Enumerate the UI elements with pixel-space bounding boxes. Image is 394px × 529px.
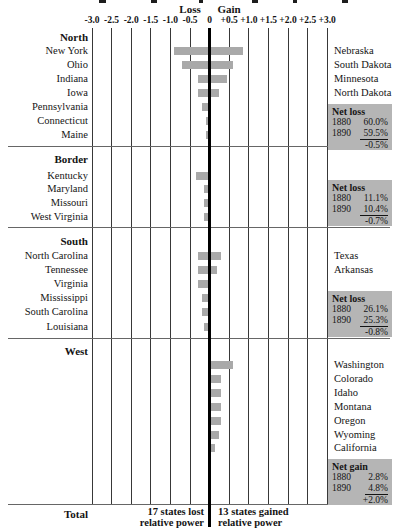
net-box-result-row: -0.7%: [332, 216, 388, 227]
net-box-year: 1880: [332, 193, 351, 204]
net-box-value: 10.4%: [360, 204, 388, 216]
net-change-box: Net loss188026.1%189025.3%-0.8%: [328, 291, 392, 337]
gain-bar: [211, 444, 215, 452]
gain-bar: [211, 89, 219, 97]
gain-state-label: Arkansas: [334, 263, 392, 276]
states-lost-note-line2: relative power: [104, 517, 204, 528]
gain-bar: [211, 431, 219, 439]
loss-state-label: Ohio: [0, 58, 88, 71]
loss-state-label: Missouri: [0, 196, 88, 209]
gain-state-label: Montana: [334, 400, 392, 413]
loss-state-label: Iowa: [0, 86, 88, 99]
net-box-title: Net gain: [332, 461, 388, 472]
states-gained-note-line2: relative power: [218, 517, 328, 528]
net-box-title: Net loss: [332, 293, 388, 304]
section-divider: [8, 227, 390, 228]
diverging-bar-chart: Loss Gain Total 17 states lost relative …: [0, 0, 394, 529]
net-box-row: 189059.5%: [332, 128, 388, 140]
net-box-year: 1880: [332, 304, 351, 315]
grid-line: [131, 28, 132, 504]
grid-line: [92, 28, 93, 504]
loss-bar: [198, 266, 209, 274]
cropped-title-remnant: [342, 0, 348, 3]
gain-state-label: South Dakota: [334, 58, 392, 71]
loss-state-label: New York: [0, 44, 88, 57]
loss-bar: [198, 252, 209, 260]
states-lost-note-line1: 17 states lost: [104, 506, 204, 517]
grid-line: [190, 28, 191, 504]
region-label: North: [0, 31, 88, 44]
net-change-box: Net loss188060.0%189059.5%-0.5%: [328, 104, 392, 150]
gain-state-label: Oregon: [334, 414, 392, 427]
grid-line: [288, 28, 289, 504]
cropped-title-remnant: [151, 0, 157, 3]
states-lost-note: 17 states lost relative power: [104, 506, 204, 528]
states-gained-note: 13 states gained relative power: [218, 506, 328, 528]
net-box-year: 1880: [332, 472, 351, 483]
loss-state-label: Louisiana: [0, 320, 88, 333]
gain-bar: [211, 61, 233, 69]
net-box-year: 1880: [332, 117, 351, 128]
region-label: South: [0, 235, 88, 248]
loss-state-label: Virginia: [0, 277, 88, 290]
net-box-year: 1890: [332, 128, 351, 140]
net-box-year: 1890: [332, 483, 351, 495]
gain-bar: [211, 75, 227, 83]
section-divider: [8, 338, 390, 339]
region-label: Border: [0, 153, 88, 166]
cropped-title-remnant: [99, 0, 106, 3]
net-box-value: 2.8%: [368, 472, 388, 483]
gain-state-label: Texas: [334, 249, 392, 262]
gain-state-label: Idaho: [334, 386, 392, 399]
net-box-value: 11.1%: [364, 193, 388, 204]
loss-bar: [198, 280, 209, 288]
gain-state-label: Minnesota: [334, 72, 392, 85]
zero-axis-line: [208, 28, 211, 527]
grid-line: [268, 28, 269, 504]
net-box-year: 1890: [332, 315, 351, 327]
grid-line: [307, 28, 308, 504]
gain-state-label: Washington: [334, 358, 392, 371]
region-label: West: [0, 345, 88, 358]
gain-bar: [211, 375, 221, 383]
net-box-title: Net loss: [332, 106, 388, 117]
cropped-title-remnant: [293, 0, 297, 3]
net-box-result: +2.0%: [363, 495, 388, 506]
gain-state-label: Wyoming: [334, 428, 392, 441]
grid-line: [170, 28, 171, 504]
loss-bar: [198, 89, 209, 97]
net-box-result: -0.5%: [365, 140, 388, 151]
net-box-value: 59.5%: [360, 128, 388, 140]
loss-state-label: Kentucky: [0, 169, 88, 182]
net-box-value: 4.8%: [365, 483, 388, 495]
grid-line: [248, 28, 249, 504]
loss-state-label: West Virginia: [0, 210, 88, 223]
net-box-row: 189025.3%: [332, 315, 388, 327]
loss-state-label: South Carolina: [0, 305, 88, 318]
grid-line: [229, 28, 230, 504]
gain-state-label: Colorado: [334, 372, 392, 385]
net-change-box: Net gain18802.8%18904.8%+2.0%: [328, 459, 392, 505]
gain-bar: [211, 403, 221, 411]
grid-line: [111, 28, 112, 504]
grid-line: [327, 28, 328, 504]
loss-state-label: Mississippi: [0, 291, 88, 304]
states-gained-note-line1: 13 states gained: [218, 506, 328, 517]
net-box-result-row: -0.8%: [332, 327, 388, 338]
net-box-value: 25.3%: [360, 315, 388, 327]
net-box-value: 26.1%: [363, 304, 388, 315]
axis-tick-label: +3.0: [312, 15, 342, 25]
loss-state-label: Maryland: [0, 182, 88, 195]
net-box-row: 189010.4%: [332, 204, 388, 216]
loss-state-label: Indiana: [0, 72, 88, 85]
net-box-row: 188026.1%: [332, 304, 388, 315]
net-box-result: -0.7%: [365, 216, 388, 227]
net-box-value: 60.0%: [363, 117, 388, 128]
net-change-box: Net loss188011.1%189010.4%-0.7%: [328, 180, 392, 226]
net-box-result-row: -0.5%: [332, 140, 388, 151]
net-box-row: 18802.8%: [332, 472, 388, 483]
net-box-row: 18904.8%: [332, 483, 388, 495]
grid-line: [150, 28, 151, 504]
gain-state-label: North Dakota: [334, 86, 392, 99]
net-box-year: 1890: [332, 204, 351, 216]
